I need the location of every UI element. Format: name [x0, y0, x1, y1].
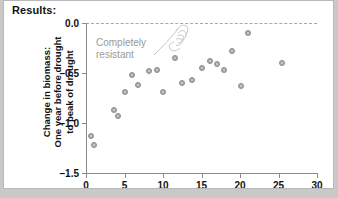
data-point	[179, 80, 185, 86]
x-tick	[317, 173, 318, 178]
y-axis-label-line-1: Change in biomass:	[41, 47, 52, 137]
pointing-hand-sketch-icon	[152, 19, 194, 59]
data-point	[154, 67, 160, 73]
data-point	[115, 113, 121, 119]
data-point	[146, 68, 152, 74]
y-axis-label-line-3: to peak of drought	[64, 50, 75, 133]
data-point	[221, 67, 227, 73]
y-tick-label: –1.5	[60, 168, 79, 179]
scatter-plot-area: 0.0–0.5–1.0–1.5 051015202530 Completely …	[86, 23, 317, 173]
data-point	[214, 61, 220, 67]
data-point	[88, 133, 94, 139]
x-tick-label: 25	[273, 180, 284, 189]
page-title: Results:	[12, 4, 56, 16]
data-point	[91, 142, 97, 148]
y-axis-line	[86, 23, 87, 173]
data-point	[207, 58, 213, 64]
x-tick-label: 30	[311, 180, 322, 189]
y-axis-label: Change in biomass: One year before droug…	[32, 17, 84, 167]
figure-panel: Results: 0.0–0.5–1.0–1.5 051015202530 Co…	[3, 0, 334, 189]
data-point	[279, 60, 285, 66]
zero-reference-line	[86, 23, 317, 24]
x-tick-label: 0	[83, 180, 89, 189]
x-tick	[279, 173, 280, 178]
x-tick	[86, 173, 87, 178]
data-point	[245, 30, 251, 36]
data-point	[160, 89, 166, 95]
x-tick	[125, 173, 126, 178]
data-point	[189, 77, 195, 83]
data-point	[129, 72, 135, 78]
data-point	[111, 107, 117, 113]
x-tick-label: 5	[122, 180, 128, 189]
annotation-completely-resistant: Completely resistant	[96, 37, 146, 60]
data-point	[238, 83, 244, 89]
data-point	[229, 48, 235, 54]
x-tick-label: 15	[196, 180, 207, 189]
x-tick	[202, 173, 203, 178]
y-axis-label-line-2: One year before drought	[52, 37, 63, 148]
data-point	[122, 89, 128, 95]
data-point	[199, 65, 205, 71]
data-point	[135, 82, 141, 88]
x-tick-label: 10	[157, 180, 168, 189]
x-tick-label: 20	[234, 180, 245, 189]
x-tick	[240, 173, 241, 178]
x-tick	[163, 173, 164, 178]
